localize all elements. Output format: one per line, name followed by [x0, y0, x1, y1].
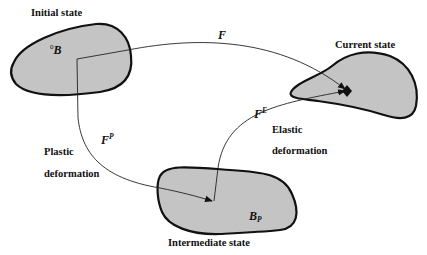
- total-map-symbol: F: [218, 28, 226, 43]
- plastic-description-line1: Plastic: [44, 146, 74, 157]
- elastic-description-line2: deformation: [272, 145, 327, 156]
- intermediate-body-symbol: BP: [249, 209, 262, 224]
- current-body-shape: [291, 52, 417, 118]
- intermediate-state-label: Intermediate state: [168, 237, 250, 248]
- intermediate-body-shape: [158, 167, 297, 234]
- current-state-label: Current state: [335, 39, 395, 50]
- elastic-map-symbol: FE: [254, 106, 267, 122]
- initial-state-label: Initial state: [31, 7, 82, 18]
- elastic-description-line1: Elastic: [272, 124, 302, 135]
- initial-body-symbol: 0B: [50, 43, 62, 58]
- plastic-description-line2: deformation: [44, 168, 99, 179]
- plastic-map-symbol: FP: [101, 132, 114, 148]
- initial-body-shape: [11, 24, 131, 95]
